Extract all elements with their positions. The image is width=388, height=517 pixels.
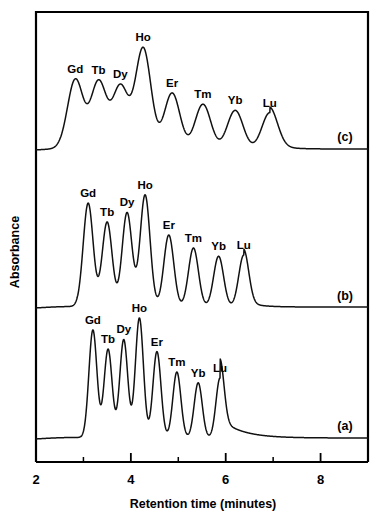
peak-label-Tb: Tb	[92, 64, 106, 76]
peak-label-Dy: Dy	[113, 68, 128, 80]
x-tick-label: 2	[32, 472, 39, 487]
peak-label-Gd: Gd	[67, 63, 83, 75]
peak-label-Er: Er	[166, 77, 179, 89]
peak-label-Dy: Dy	[116, 323, 131, 335]
peak-label-Dy: Dy	[120, 196, 135, 208]
peak-label-Yb: Yb	[211, 240, 226, 252]
peak-label-Ho: Ho	[137, 179, 152, 191]
peak-label-Gd: Gd	[80, 187, 96, 199]
y-axis-title: Absorbance	[8, 216, 22, 288]
peak-label-Ho: Ho	[136, 31, 151, 43]
peak-label-Er: Er	[163, 219, 176, 231]
figure-background	[0, 0, 388, 517]
x-tick-label: 4	[127, 472, 135, 487]
peak-label-Er: Er	[151, 336, 164, 348]
trace-tag-top: (c)	[337, 130, 352, 144]
peak-label-Lu: Lu	[213, 362, 227, 374]
peak-label-Lu: Lu	[263, 97, 277, 109]
x-axis-title: Retention time (minutes)	[130, 497, 277, 511]
x-tick-label: 8	[317, 472, 324, 487]
trace-tag-middle: (b)	[337, 289, 353, 303]
peak-label-Tb: Tb	[100, 206, 114, 218]
peak-label-Tm: Tm	[185, 232, 202, 244]
peak-label-Yb: Yb	[228, 94, 243, 106]
peak-label-Tb: Tb	[101, 333, 115, 345]
peak-label-Lu: Lu	[237, 239, 251, 251]
chromatogram-svg: 2468 GdTbDyHoErTmYbLuGdTbDyHoErTmYbLuGdT…	[0, 0, 388, 517]
peak-label-Ho: Ho	[132, 302, 147, 314]
peak-label-Tm: Tm	[194, 88, 211, 100]
trace-tag-bottom: (a)	[337, 419, 352, 433]
x-tick-label: 6	[222, 472, 229, 487]
peak-label-Tm: Tm	[168, 356, 185, 368]
peak-label-Yb: Yb	[191, 367, 206, 379]
peak-label-Gd: Gd	[85, 314, 101, 326]
chromatogram-figure: 2468 GdTbDyHoErTmYbLuGdTbDyHoErTmYbLuGdT…	[0, 0, 388, 517]
